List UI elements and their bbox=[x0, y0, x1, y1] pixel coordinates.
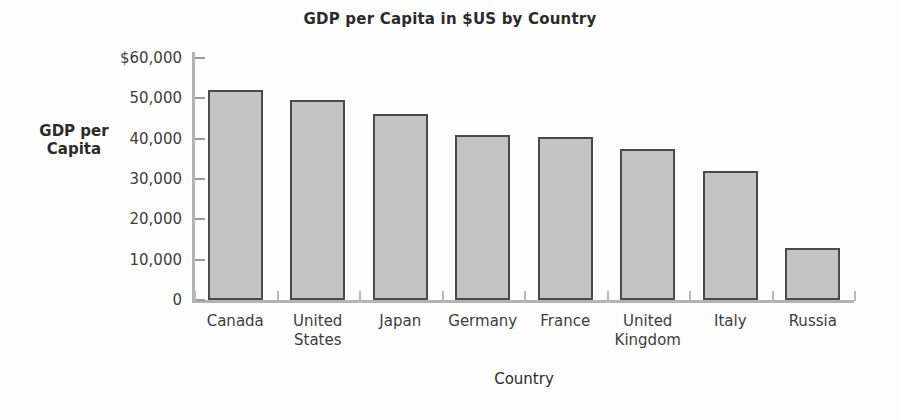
x-axis-category-label-line: Kingdom bbox=[607, 331, 690, 350]
bar bbox=[620, 149, 675, 300]
y-axis-tick-label: 0 bbox=[72, 291, 182, 309]
x-axis-category-label-line: Japan bbox=[359, 312, 442, 331]
bar-chart: GDP per Capita in $US by Country GDP per… bbox=[0, 0, 900, 420]
x-axis-spine bbox=[192, 300, 854, 303]
y-axis-tick-label: $60,000 bbox=[72, 49, 182, 67]
bar bbox=[290, 100, 345, 300]
x-axis-category-label-line: Germany bbox=[442, 312, 525, 331]
bar bbox=[373, 114, 428, 300]
x-axis-category-label: Italy bbox=[689, 312, 772, 331]
x-axis-category-label: France bbox=[524, 312, 607, 331]
x-axis-category-label: Germany bbox=[442, 312, 525, 331]
y-axis-title-line-1: GDP bbox=[39, 122, 75, 140]
x-axis-category-label-line: France bbox=[524, 312, 607, 331]
x-axis-category-label-line: United bbox=[607, 312, 690, 331]
bar bbox=[208, 90, 263, 300]
x-axis-category-label: UnitedStates bbox=[277, 312, 360, 350]
y-axis-tick-label: 40,000 bbox=[72, 130, 182, 148]
bar bbox=[538, 137, 593, 300]
x-axis-category-label-line: Canada bbox=[194, 312, 277, 331]
x-axis-category-label-line: United bbox=[277, 312, 360, 331]
x-axis-category-label: UnitedKingdom bbox=[607, 312, 690, 350]
y-axis-tick-label: 20,000 bbox=[72, 210, 182, 228]
y-axis-tick-label: 30,000 bbox=[72, 170, 182, 188]
bar bbox=[703, 171, 758, 300]
x-axis-category-label: Russia bbox=[772, 312, 855, 331]
bars-layer bbox=[194, 58, 854, 300]
x-axis-tick bbox=[854, 291, 856, 301]
x-axis-category-label: Canada bbox=[194, 312, 277, 331]
x-axis-category-label-line: States bbox=[277, 331, 360, 350]
y-axis-tick-label: 50,000 bbox=[72, 89, 182, 107]
x-axis-category-label: Japan bbox=[359, 312, 442, 331]
chart-title: GDP per Capita in $US by Country bbox=[0, 10, 900, 28]
x-axis-category-label-line: Russia bbox=[772, 312, 855, 331]
bar bbox=[455, 135, 510, 300]
x-axis-category-label-line: Italy bbox=[689, 312, 772, 331]
x-axis-title: Country bbox=[194, 370, 854, 388]
bar bbox=[785, 248, 840, 300]
y-axis-tick-label: 10,000 bbox=[72, 251, 182, 269]
